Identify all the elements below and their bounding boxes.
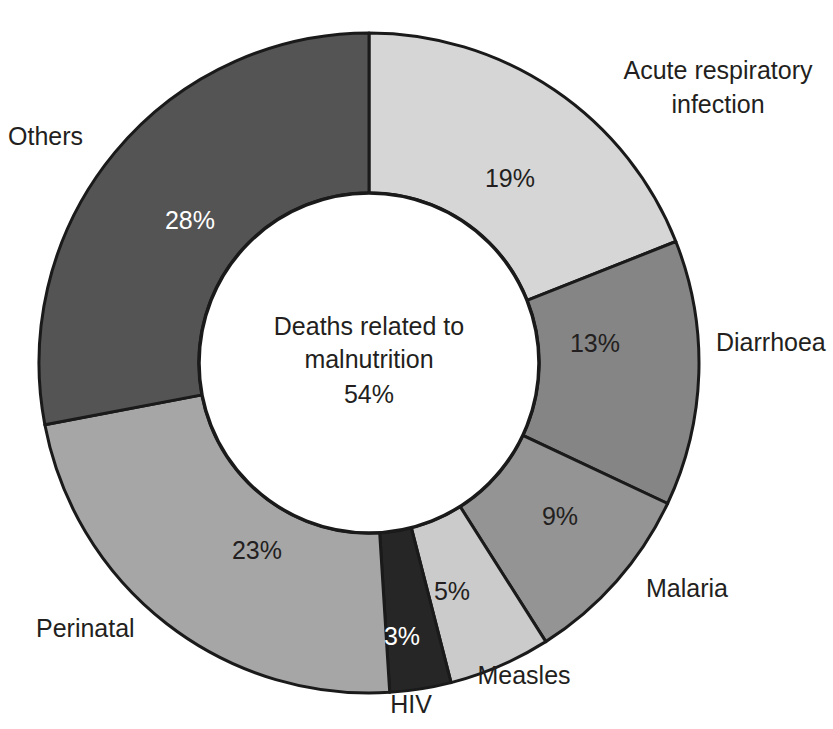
center-annotation-line2: malnutrition — [304, 345, 433, 373]
slice-percent-measles: 5% — [434, 577, 470, 605]
slice-label-measles: Measles — [477, 661, 570, 689]
slice-label-diarrhoea: Diarrhoea — [716, 328, 826, 356]
slice-label-others: Others — [8, 122, 83, 150]
slice-percent-hiv: 3% — [384, 622, 420, 650]
slice-label-perinatal: Perinatal — [36, 614, 135, 642]
slice-label-malaria: Malaria — [646, 574, 728, 602]
slice-label-acute-respiratory-infection-line1: Acute respiratory — [624, 56, 813, 84]
slice-label-hiv: HIV — [390, 690, 432, 718]
center-annotation-value: 54% — [344, 380, 394, 408]
slice-percent-diarrhoea: 13% — [570, 329, 620, 357]
donut-chart: 19%13%9%5%3%23%28% Acute respiratoryinfe… — [0, 0, 833, 729]
slice-percent-malaria: 9% — [542, 502, 578, 530]
donut-chart-svg: 19%13%9%5%3%23%28% Acute respiratoryinfe… — [0, 0, 833, 729]
slice-percent-others: 28% — [165, 206, 215, 234]
center-annotation-line1: Deaths related to — [274, 312, 464, 340]
slice-percent-acute-respiratory-infection: 19% — [485, 164, 535, 192]
slice-label-acute-respiratory-infection-line2: infection — [671, 90, 764, 118]
slice-percent-perinatal: 23% — [232, 536, 282, 564]
